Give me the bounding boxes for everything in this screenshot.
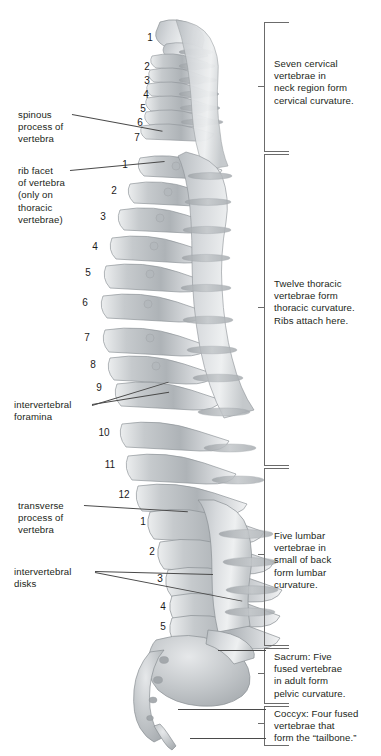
vertebra-number-cervical-6: 6 — [133, 118, 147, 128]
vertebra-number-lumbar-3: 3 — [153, 574, 167, 584]
part-label-rib-facet: rib facet of vertebra (only on thoracic … — [18, 165, 92, 226]
part-label-intervertebral-foramina: intervertebral foramina — [14, 399, 98, 423]
region-label-cervical: Seven cervical vertebrae in neck region … — [274, 58, 376, 107]
vertebra-number-cervical-7: 7 — [130, 133, 144, 143]
region-label-thoracic: Twelve thoracic vertebrae form thoracic … — [274, 278, 376, 327]
spine-anatomy-figure: Seven cervical vertebrae in neck region … — [0, 0, 381, 756]
vertebra-number-cervical-3: 3 — [140, 76, 154, 86]
vertebra-number-cervical-1: 1 — [143, 33, 157, 43]
vertebra-number-thoracic-9: 9 — [92, 383, 106, 393]
leader-sacrum — [218, 650, 266, 651]
bracket-tick-cervical — [258, 86, 265, 87]
bracket-tick-sacrum — [258, 673, 265, 674]
vertebra-number-cervical-5: 5 — [136, 104, 150, 114]
vertebra-number-lumbar-2: 2 — [145, 547, 159, 557]
vertebra-number-lumbar-5: 5 — [156, 622, 170, 632]
vertebra-number-cervical-2: 2 — [140, 62, 154, 72]
region-label-coccyx: Coccyx: Four fused vertebrae that form t… — [274, 708, 380, 745]
vertebra-number-thoracic-8: 8 — [86, 360, 100, 370]
leader-transverse-process — [84, 505, 188, 512]
part-label-transverse-process: transverse process of vertebra — [18, 500, 90, 537]
part-label-intervertebral-disks: intervertebral disks — [14, 566, 98, 590]
vertebra-number-thoracic-3: 3 — [96, 212, 110, 222]
vertebra-number-thoracic-7: 7 — [80, 333, 94, 343]
leader-disks-lower — [95, 572, 242, 602]
bracket-tick-thoracic — [258, 307, 265, 308]
vertebra-number-thoracic-5: 5 — [81, 268, 95, 278]
vertebra-number-cervical-4: 4 — [139, 90, 153, 100]
bracket-tick-coccyx — [258, 723, 265, 724]
region-label-lumbar: Five lumbar vertebrae in small of back f… — [274, 530, 376, 591]
region-label-sacrum: Sacrum: Five fused vertebrae in adult fo… — [274, 651, 378, 700]
bracket-tick-lumbar — [258, 554, 265, 555]
vertebra-number-lumbar-1: 1 — [136, 517, 150, 527]
vertebra-number-lumbar-4: 4 — [156, 602, 170, 612]
vertebra-number-thoracic-10: 10 — [97, 428, 111, 438]
vertebra-number-thoracic-11: 11 — [103, 460, 117, 470]
leader-coccyx-lower — [190, 738, 266, 739]
vertebra-number-thoracic-6: 6 — [78, 298, 92, 308]
vertebra-number-thoracic-12: 12 — [117, 490, 131, 500]
vertebra-number-thoracic-1: 1 — [118, 160, 132, 170]
leader-coccyx-upper — [178, 709, 266, 710]
vertebra-number-thoracic-2: 2 — [107, 186, 121, 196]
vertebra-number-thoracic-4: 4 — [88, 242, 102, 252]
